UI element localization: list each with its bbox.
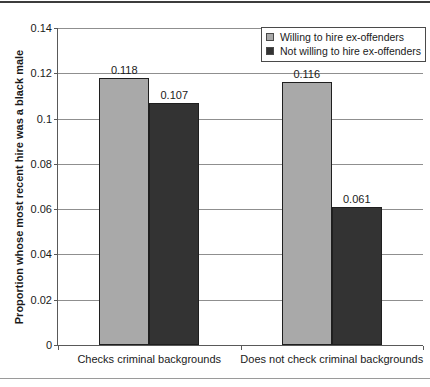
y-tick-label: 0.06	[12, 203, 52, 215]
x-tick-mark	[423, 346, 424, 350]
figure: Proportion whose most recent hire was a …	[0, 0, 430, 387]
y-tick-label: 0.08	[12, 158, 52, 170]
bar-willing-1	[282, 82, 332, 345]
x-category-label: Does not check criminal backgrounds	[240, 353, 423, 365]
y-tick-label: 0.1	[12, 113, 52, 125]
y-tick-label: 0.04	[12, 248, 52, 260]
y-tick-label: 0.12	[12, 67, 52, 79]
y-tick-label: 0.14	[12, 22, 52, 34]
y-tick-label: 0.02	[12, 294, 52, 306]
legend-item-willing: Willing to hire ex-offenders	[266, 30, 421, 44]
bar-value-label: 0.061	[331, 193, 383, 205]
legend-marker-not-willing	[266, 47, 274, 55]
bar-value-label: 0.107	[148, 89, 200, 101]
x-category-label: Checks criminal backgrounds	[77, 353, 221, 365]
x-tick-mark	[58, 346, 59, 350]
legend-label-willing: Willing to hire ex-offenders	[280, 31, 404, 44]
bar-value-label: 0.118	[98, 64, 150, 76]
bar-willing-0	[99, 78, 149, 345]
bar-value-label: 0.116	[281, 68, 333, 80]
legend: Willing to hire ex-offenders Not willing…	[261, 27, 426, 62]
y-tick-label: 0	[12, 339, 52, 351]
y-axis-title: Proportion whose most recent hire was a …	[13, 50, 25, 324]
bar-not-willing-1	[332, 207, 382, 345]
bar-chart: Proportion whose most recent hire was a …	[0, 0, 430, 387]
x-tick-mark	[241, 346, 242, 350]
legend-marker-willing	[266, 33, 274, 41]
bar-not-willing-0	[149, 103, 199, 345]
y-axis-line	[57, 28, 58, 346]
legend-item-not-willing: Not willing to hire ex-offenders	[266, 44, 421, 58]
legend-label-not-willing: Not willing to hire ex-offenders	[280, 45, 421, 58]
